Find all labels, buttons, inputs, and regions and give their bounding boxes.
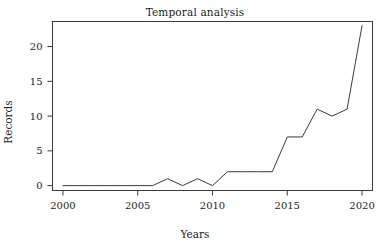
x-axis-title: Years bbox=[0, 228, 390, 240]
line-chart-plot: 20002005201020152020 05101520 bbox=[0, 0, 390, 250]
x-tick-label: 2000 bbox=[50, 200, 75, 211]
y-tick-label: 20 bbox=[30, 41, 43, 52]
y-tick-label: 0 bbox=[36, 180, 42, 191]
plot-border bbox=[53, 22, 373, 191]
x-tick-label: 2010 bbox=[200, 200, 225, 211]
x-tick-label: 2020 bbox=[349, 200, 374, 211]
records-line bbox=[63, 26, 362, 186]
chart-figure: Temporal analysis 20002005201020152020 0… bbox=[0, 0, 390, 250]
x-tick-label: 2015 bbox=[275, 200, 300, 211]
data-series-group bbox=[63, 26, 362, 186]
y-tick-label: 5 bbox=[36, 145, 42, 156]
y-tick-label: 15 bbox=[30, 76, 43, 87]
x-axis-ticks: 20002005201020152020 bbox=[50, 191, 375, 211]
y-tick-label: 10 bbox=[30, 111, 43, 122]
plot-frame bbox=[53, 22, 373, 191]
y-axis-ticks: 05101520 bbox=[30, 41, 53, 191]
y-axis-title: Records bbox=[2, 82, 14, 162]
x-tick-label: 2005 bbox=[125, 200, 150, 211]
